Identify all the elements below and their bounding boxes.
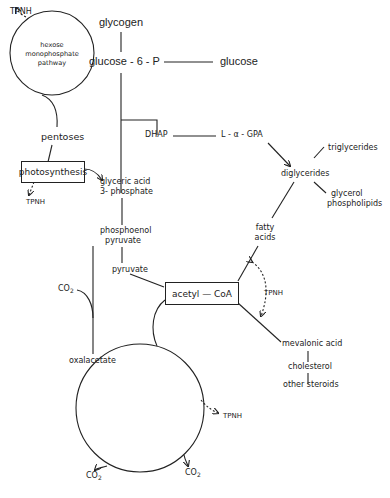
pyruvate-label: pyruvate bbox=[112, 266, 148, 274]
diagram-lines bbox=[0, 0, 390, 498]
pentoses-label: pentoses bbox=[41, 132, 84, 142]
acetyl-coa-label: acetyl — CoA bbox=[172, 289, 232, 299]
co2-label-bottom-left: CO2 bbox=[86, 472, 102, 481]
pep-label: phosphoenol pyruvate bbox=[100, 226, 146, 246]
glucose-6-p-label: glucose - 6 - P bbox=[89, 56, 160, 67]
glucose-label: glucose bbox=[220, 56, 258, 67]
tpnh-label-photo: TPNH bbox=[26, 199, 45, 206]
triglycerides-label: triglycerides bbox=[328, 144, 378, 152]
glyceric-acid-label: glyceric acid 3- phosphate bbox=[100, 177, 150, 196]
hmp-label: hexose monophosphate pathway bbox=[24, 41, 80, 68]
tpnh-label-acetyl: TPNH bbox=[264, 290, 283, 297]
co2-label-left: CO2 bbox=[58, 285, 74, 294]
pep-line-2: pyruvate bbox=[100, 236, 146, 246]
tpnh-label-top: TPNH bbox=[10, 8, 32, 16]
photosynthesis-label: photosynthesis bbox=[19, 167, 87, 177]
fatty-line-2: acids bbox=[252, 233, 278, 243]
glyceric-line-2: 3- phosphate bbox=[100, 187, 150, 197]
tpnh-label-tca: TPNH bbox=[223, 413, 242, 420]
metabolic-pathway-diagram: TPNH hexose monophosphate pathway glycog… bbox=[0, 0, 390, 498]
glycerol-line-1: glycerol bbox=[327, 189, 382, 199]
diglycerides-label: diglycerides bbox=[281, 170, 329, 178]
hmp-line-2: monophosphate bbox=[24, 50, 80, 59]
glycerol-line-2: phospholipids bbox=[327, 199, 382, 209]
acetyl-coa-box: acetyl — CoA bbox=[165, 282, 239, 305]
oxalacetate-label: oxalacetate bbox=[69, 357, 116, 365]
hmp-line-1: hexose bbox=[24, 41, 80, 50]
mevalonic-acid-label: mevalonic acid bbox=[282, 340, 342, 348]
glycogen-label: glycogen bbox=[99, 17, 143, 28]
other-steroids-label: other steroids bbox=[283, 381, 339, 389]
co2-label-bottom-right: CO2 bbox=[185, 469, 201, 478]
fatty-acids-label: fatty acids bbox=[252, 223, 278, 244]
photosynthesis-box: photosynthesis bbox=[21, 161, 85, 183]
fatty-line-1: fatty bbox=[252, 223, 278, 233]
glycerol-phospholipids-label: glycerol phospholipids bbox=[327, 189, 382, 210]
dhap-label: DHAP bbox=[145, 131, 167, 139]
l-alpha-gpa-label: L - α - GPA bbox=[221, 131, 263, 139]
hmp-line-3: pathway bbox=[24, 59, 80, 68]
glyceric-line-1: glyceric acid bbox=[100, 177, 150, 187]
cholesterol-label: cholesterol bbox=[288, 363, 332, 371]
pep-line-1: phosphoenol bbox=[100, 226, 146, 236]
